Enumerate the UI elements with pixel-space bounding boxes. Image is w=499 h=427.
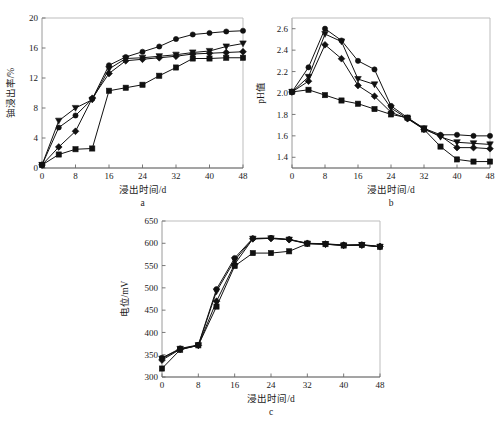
data-point xyxy=(287,249,292,254)
x-tick-label: 24 xyxy=(267,380,277,390)
data-point xyxy=(306,87,311,92)
panel-b-ph-value: 1.41.61.82.02.22.42.6081624324048浸出时间/dp… xyxy=(250,0,499,205)
data-point xyxy=(240,28,245,33)
data-point xyxy=(232,263,237,268)
data-point xyxy=(250,250,255,255)
data-point xyxy=(487,145,494,152)
y-tick-label: 1.4 xyxy=(277,152,289,162)
data-point xyxy=(73,113,78,118)
series-line xyxy=(162,244,380,369)
y-tick-label: 8 xyxy=(34,103,39,113)
series-line xyxy=(292,34,490,144)
data-point xyxy=(359,242,364,247)
x-tick-label: 16 xyxy=(230,380,240,390)
data-point xyxy=(438,144,443,149)
y-tick-label: 550 xyxy=(145,261,159,271)
y-tick-label: 500 xyxy=(145,283,159,293)
x-tick-label: 24 xyxy=(138,171,148,181)
y-tick-label: 16 xyxy=(29,43,39,53)
y-tick-label: 0 xyxy=(34,163,39,173)
x-axis-ticks: 081624324048 xyxy=(290,165,495,182)
data-point xyxy=(39,162,44,167)
data-point xyxy=(305,241,310,246)
series-4 xyxy=(289,87,492,164)
data-point xyxy=(322,93,327,98)
y-tick-label: 350 xyxy=(145,350,159,360)
y-tick-label: 1.8 xyxy=(277,110,289,120)
x-axis-title: 浸出时间/d xyxy=(119,184,167,195)
panel-letter: c xyxy=(269,407,273,417)
data-point xyxy=(355,101,360,106)
series-line xyxy=(162,238,380,358)
x-tick-label: 0 xyxy=(40,171,45,181)
data-point xyxy=(372,67,377,72)
series-4 xyxy=(159,241,382,371)
data-point xyxy=(90,146,95,151)
y-tick-label: 650 xyxy=(145,216,159,226)
y-tick-label: 2.2 xyxy=(277,67,288,77)
data-point xyxy=(140,49,145,54)
data-point xyxy=(106,88,111,93)
data-point xyxy=(341,243,346,248)
data-point xyxy=(213,289,220,295)
y-axis-title: 电位/mV xyxy=(119,280,130,317)
x-tick-label: 8 xyxy=(73,171,78,181)
plot-area xyxy=(42,18,243,168)
y-tick-label: 2.4 xyxy=(277,45,289,55)
y-tick-label: 4 xyxy=(34,133,39,143)
data-point xyxy=(140,82,145,87)
data-point xyxy=(355,82,362,89)
y-tick-label: 20 xyxy=(29,13,39,23)
x-tick-label: 32 xyxy=(172,171,181,181)
series-2 xyxy=(289,31,494,147)
x-tick-label: 32 xyxy=(303,380,312,390)
y-tick-label: 1.6 xyxy=(277,131,289,141)
y-tick-label: 400 xyxy=(145,328,159,338)
x-tick-label: 40 xyxy=(339,380,349,390)
plot-area xyxy=(292,18,490,168)
data-point xyxy=(487,133,492,138)
data-point xyxy=(470,144,477,151)
data-point xyxy=(56,118,63,124)
series-1 xyxy=(39,28,245,167)
x-tick-label: 40 xyxy=(453,171,463,181)
x-axis-ticks: 081624324048 xyxy=(160,374,385,391)
data-point xyxy=(306,65,311,70)
data-point xyxy=(355,58,360,63)
y-tick-label: 2.6 xyxy=(277,24,289,34)
series-line xyxy=(292,90,490,162)
y-axis-title: pH值 xyxy=(255,82,266,104)
y-axis-title: 铀浸出率/% xyxy=(5,68,16,119)
data-point xyxy=(73,147,78,152)
x-axis-title: 浸出时间/d xyxy=(367,184,415,195)
x-tick-label: 48 xyxy=(376,380,386,390)
data-point xyxy=(487,159,492,164)
data-point xyxy=(224,29,229,34)
x-tick-label: 8 xyxy=(323,171,328,181)
data-point xyxy=(207,30,212,35)
data-point xyxy=(289,89,294,94)
x-tick-label: 0 xyxy=(160,380,165,390)
y-tick-label: 2.0 xyxy=(277,88,289,98)
data-point xyxy=(339,98,344,103)
data-point xyxy=(405,115,410,120)
series-line xyxy=(42,52,243,165)
x-tick-label: 16 xyxy=(105,171,115,181)
data-point xyxy=(388,112,393,117)
data-point xyxy=(240,48,247,55)
data-point xyxy=(56,152,61,157)
x-tick-label: 32 xyxy=(420,171,429,181)
panel-a-uranium-leaching-rate: 048121620081624324048浸出时间/d铀浸出率/%a xyxy=(0,0,250,205)
data-point xyxy=(214,304,219,309)
x-tick-label: 48 xyxy=(486,171,496,181)
x-tick-label: 48 xyxy=(239,171,249,181)
data-point xyxy=(173,65,178,70)
data-point xyxy=(159,366,164,371)
data-point xyxy=(471,159,476,164)
x-tick-label: 24 xyxy=(387,171,397,181)
data-point xyxy=(123,85,128,90)
data-point xyxy=(157,73,162,78)
y-tick-label: 300 xyxy=(145,372,159,382)
data-point xyxy=(454,157,459,162)
data-point xyxy=(268,250,273,255)
